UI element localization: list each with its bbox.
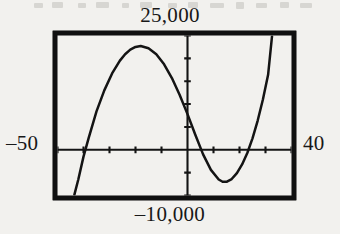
x-axis-max-label: 40 xyxy=(303,133,325,154)
graph-figure xyxy=(0,0,340,234)
function-curve xyxy=(74,36,272,194)
x-axis-min-label: –50 xyxy=(6,133,38,154)
y-axis-min-label: –10,000 xyxy=(0,204,340,225)
y-axis-max-label: 25,000 xyxy=(0,5,340,26)
